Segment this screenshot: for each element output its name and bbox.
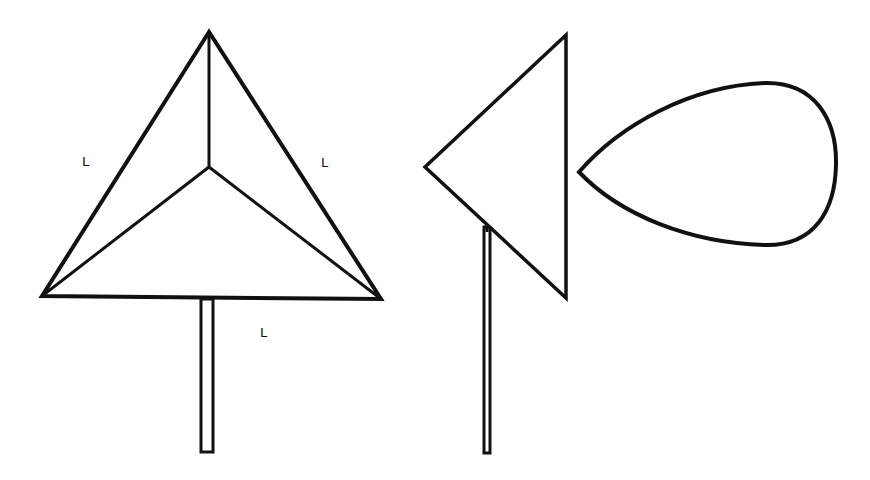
diagram-canvas: L L L [0,0,870,480]
side-sign-post [484,227,490,453]
side-triangle-outline [425,35,566,298]
front-triangle-sign: L L L [42,32,381,452]
fold-edge-right [209,167,381,299]
teardrop-outline [579,83,836,245]
teardrop-figure [579,83,836,245]
fold-edge-left [42,167,209,296]
edge-label-right: L [321,155,329,170]
edge-label-left: L [82,154,90,169]
front-sign-post [201,299,213,452]
edge-label-bottom: L [260,325,268,340]
side-triangle-sign [425,35,566,453]
